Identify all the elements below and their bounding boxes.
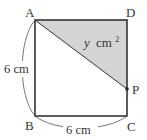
area-variable: y xyxy=(82,35,90,50)
vertex-label-d: D xyxy=(126,5,135,20)
square-diagram: A D B C P y cm 2 6 cm 6 cm xyxy=(0,0,147,140)
vertex-label-c: C xyxy=(127,119,136,134)
area-unit-exponent: 2 xyxy=(115,35,119,44)
vertex-label-b: B xyxy=(25,118,34,133)
vertex-label-p: P xyxy=(132,82,139,97)
left-dimension-label: 6 cm xyxy=(4,62,29,76)
bottom-dimension-label: 6 cm xyxy=(66,123,91,137)
area-label: y cm 2 xyxy=(82,35,119,50)
vertex-label-a: A xyxy=(25,5,35,20)
area-unit: cm xyxy=(96,35,112,50)
point-p xyxy=(125,87,129,91)
